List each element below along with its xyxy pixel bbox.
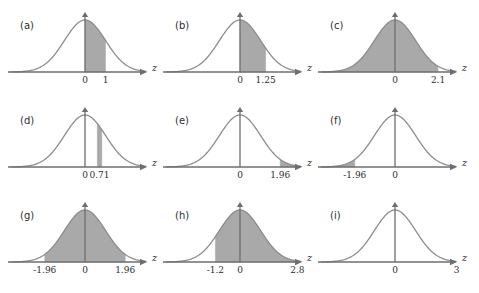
normal-curve-plot bbox=[0, 95, 160, 193]
tick-label: 2.8 bbox=[290, 265, 304, 275]
y-axis-arrowhead-icon bbox=[392, 202, 398, 207]
tick-label: 0 bbox=[82, 265, 88, 275]
tick-label: 0 bbox=[237, 75, 243, 85]
y-axis-arrowhead-icon bbox=[82, 12, 88, 17]
bell-curve bbox=[321, 115, 456, 167]
tick-label: 1.96 bbox=[270, 170, 290, 180]
shaded-region bbox=[85, 20, 106, 72]
panel-a: (a)01z bbox=[0, 0, 160, 98]
panel-b: (b)01.25z bbox=[155, 0, 315, 98]
bell-curve bbox=[11, 20, 146, 72]
normal-curve-plot bbox=[0, 0, 160, 98]
bell-curve bbox=[166, 115, 301, 167]
x-axis-arrowhead-icon bbox=[140, 69, 147, 75]
tick-label: 1 bbox=[103, 75, 109, 85]
tick-label: 0 bbox=[392, 170, 398, 180]
shaded-region bbox=[321, 20, 438, 72]
tick-label: -1.2 bbox=[207, 265, 224, 275]
normal-curve-plot bbox=[155, 0, 315, 98]
tick-label: 0 bbox=[392, 265, 398, 275]
normal-curve-plot bbox=[155, 95, 315, 193]
y-axis-arrowhead-icon bbox=[392, 107, 398, 112]
shaded-region bbox=[97, 124, 102, 167]
x-axis-arrowhead-icon bbox=[295, 69, 302, 75]
panel-h: (h)-1.202.8z bbox=[155, 190, 315, 288]
x-axis-arrowhead-icon bbox=[450, 164, 457, 170]
normal-curves-figure: (a)01z(b)01.25z(c)02.1z(d)00.71z(e)01.96… bbox=[0, 0, 479, 293]
x-axis-arrowhead-icon bbox=[140, 164, 147, 170]
panel-i: (i)03z bbox=[310, 190, 470, 288]
panel-e: (e)01.96z bbox=[155, 95, 315, 193]
tick-label: 0 bbox=[392, 75, 398, 85]
bell-curve bbox=[321, 210, 456, 262]
tick-label: 0 bbox=[82, 75, 88, 85]
bell-curve bbox=[11, 115, 146, 167]
x-axis-label: z bbox=[462, 252, 467, 263]
x-axis-arrowhead-icon bbox=[450, 69, 457, 75]
normal-curve-plot bbox=[310, 190, 470, 288]
tick-label: 0 bbox=[237, 170, 243, 180]
panel-d: (d)00.71z bbox=[0, 95, 160, 193]
tick-label: -1.96 bbox=[343, 170, 366, 180]
y-axis-arrowhead-icon bbox=[82, 202, 88, 207]
shaded-region bbox=[240, 20, 266, 72]
y-axis-arrowhead-icon bbox=[237, 12, 243, 17]
tick-label: 3 bbox=[454, 265, 460, 275]
y-axis-arrowhead-icon bbox=[237, 107, 243, 112]
x-axis-arrowhead-icon bbox=[140, 259, 147, 265]
tick-label: 0.71 bbox=[90, 170, 110, 180]
x-axis-arrowhead-icon bbox=[295, 164, 302, 170]
panel-f: (f)-1.960z bbox=[310, 95, 470, 193]
x-axis-label: z bbox=[462, 62, 467, 73]
y-axis-arrowhead-icon bbox=[392, 12, 398, 17]
tick-label: 1.96 bbox=[115, 265, 135, 275]
normal-curve-plot bbox=[0, 190, 160, 288]
y-axis-arrowhead-icon bbox=[237, 202, 243, 207]
x-axis-label: z bbox=[462, 157, 467, 168]
tick-label: 2.1 bbox=[431, 75, 445, 85]
panel-g: (g)-1.9601.96z bbox=[0, 190, 160, 288]
bell-curve bbox=[166, 20, 301, 72]
tick-label: 1.25 bbox=[256, 75, 276, 85]
y-axis-arrowhead-icon bbox=[82, 107, 88, 112]
tick-label: 0 bbox=[237, 265, 243, 275]
tick-label: 0 bbox=[82, 170, 88, 180]
panel-c: (c)02.1z bbox=[310, 0, 470, 98]
normal-curve-plot bbox=[310, 0, 470, 98]
tick-label: -1.96 bbox=[33, 265, 56, 275]
normal-curve-plot bbox=[310, 95, 470, 193]
